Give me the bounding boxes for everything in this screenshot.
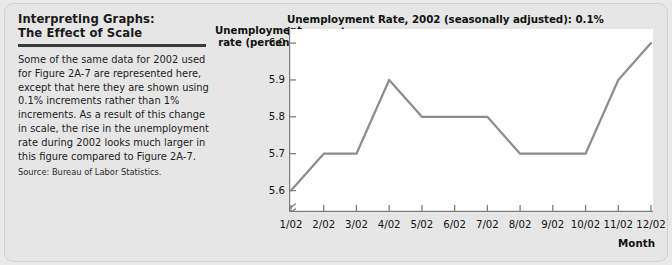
caption-title: Interpreting Graphs: The Effect of Scale xyxy=(18,13,218,40)
caption-body: Some of the same data for 2002 used for … xyxy=(18,53,210,164)
chart: Unemployment Rate, 2002 (seasonally adju… xyxy=(221,8,669,263)
caption-title-line2: The Effect of Scale xyxy=(18,27,218,41)
y-tick-label: 5.9 xyxy=(251,74,285,85)
plot-svg xyxy=(289,29,653,212)
y-tick-label: 5.6 xyxy=(251,185,285,196)
x-tick-label: 12/02 xyxy=(631,219,671,230)
plot-area xyxy=(289,29,653,212)
title-divider xyxy=(18,44,206,47)
x-axis-tick-labels: 1/022/023/024/025/026/027/028/029/0210/0… xyxy=(289,219,653,235)
y-tick-label: 5.7 xyxy=(251,148,285,159)
caption-column: Interpreting Graphs: The Effect of Scale… xyxy=(18,13,218,253)
y-tick-label: 5.8 xyxy=(251,111,285,122)
figure-panel: Interpreting Graphs: The Effect of Scale… xyxy=(4,3,668,262)
x-axis-title: Month xyxy=(551,237,655,249)
y-tick-label: 6.0 xyxy=(251,37,285,48)
y-axis-tick-labels: 6.05.95.85.75.6 xyxy=(243,29,285,212)
figure-container: Interpreting Graphs: The Effect of Scale… xyxy=(0,0,672,265)
caption-source: Source: Bureau of Labor Statistics. xyxy=(18,167,218,178)
caption-title-line1: Interpreting Graphs: xyxy=(18,13,218,27)
